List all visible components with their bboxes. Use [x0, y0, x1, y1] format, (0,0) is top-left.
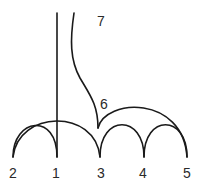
edge-4-5 [144, 125, 187, 157]
edge-7-6 [72, 13, 98, 128]
node-label-6: 6 [100, 96, 108, 112]
edge-6-5 [98, 107, 187, 157]
node-label-7: 7 [97, 13, 105, 29]
arc-diagram: 2 1 3 4 5 6 7 [0, 0, 198, 187]
node-label-1: 1 [52, 165, 60, 181]
edge-3-4 [100, 125, 144, 157]
node-label-3: 3 [97, 165, 105, 181]
node-label-2: 2 [9, 165, 17, 181]
node-label-4: 4 [139, 165, 147, 181]
node-label-5: 5 [183, 165, 191, 181]
edge-2-1 [13, 125, 57, 157]
